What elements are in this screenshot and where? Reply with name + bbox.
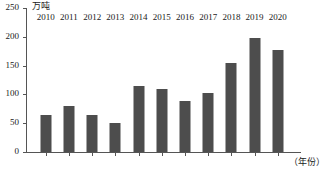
bar-2016	[179, 101, 190, 152]
x-tick-2011	[69, 153, 70, 156]
x-tick-label-2014: 2014	[130, 12, 148, 23]
bar-2012	[87, 115, 98, 152]
x-tick-label-2010: 2010	[37, 12, 55, 23]
bar-chart-figure: 万吨 050100150200250 201020112012201320142…	[0, 0, 330, 173]
y-tick-100: 100	[23, 94, 26, 95]
x-tick-2019	[255, 153, 256, 156]
x-tick-2013	[115, 153, 116, 156]
x-tick-label-2012: 2012	[83, 12, 101, 23]
x-tick-2016	[185, 153, 186, 156]
x-tick-2014	[139, 153, 140, 156]
bar-2017	[203, 93, 214, 152]
y-tick-label: 50	[10, 117, 19, 128]
x-tick-label-2017: 2017	[199, 12, 217, 23]
x-tick-2015	[162, 153, 163, 156]
x-tick-2012	[92, 153, 93, 156]
x-tick-2018	[231, 153, 232, 156]
y-tick-250: 250	[23, 8, 26, 9]
x-tick-label-2011: 2011	[60, 12, 78, 23]
bar-2011	[63, 106, 74, 152]
y-tick-label: 100	[6, 88, 20, 99]
x-tick-label-2015: 2015	[153, 12, 171, 23]
bar-2018	[226, 63, 237, 152]
y-tick-label: 150	[6, 60, 20, 71]
y-tick-0: 0	[23, 152, 26, 153]
plot-area: 050100150200250 201020112012201320142015…	[26, 8, 301, 153]
y-tick-label: 250	[6, 2, 20, 13]
x-tick-2010	[46, 153, 47, 156]
y-tick-label: 0	[15, 146, 20, 157]
x-tick-label-2019: 2019	[246, 12, 264, 23]
y-axis-line	[26, 8, 27, 153]
bar-2020	[272, 50, 283, 152]
bar-2019	[249, 38, 260, 152]
y-tick-200: 200	[23, 37, 26, 38]
bar-2013	[110, 123, 121, 152]
bar-2014	[133, 86, 144, 152]
x-tick-label-2020: 2020	[269, 12, 287, 23]
x-tick-2017	[208, 153, 209, 156]
x-tick-label-2018: 2018	[222, 12, 240, 23]
x-axis-name-label: （年份）	[289, 157, 325, 168]
bar-2015	[156, 89, 167, 152]
y-tick-150: 150	[23, 66, 26, 67]
x-tick-2020	[278, 153, 279, 156]
bar-2010	[40, 115, 51, 152]
x-axis-line	[26, 152, 301, 153]
x-tick-label-2016: 2016	[176, 12, 194, 23]
x-tick-label-2013: 2013	[106, 12, 124, 23]
y-tick-label: 200	[6, 31, 20, 42]
y-tick-50: 50	[23, 123, 26, 124]
